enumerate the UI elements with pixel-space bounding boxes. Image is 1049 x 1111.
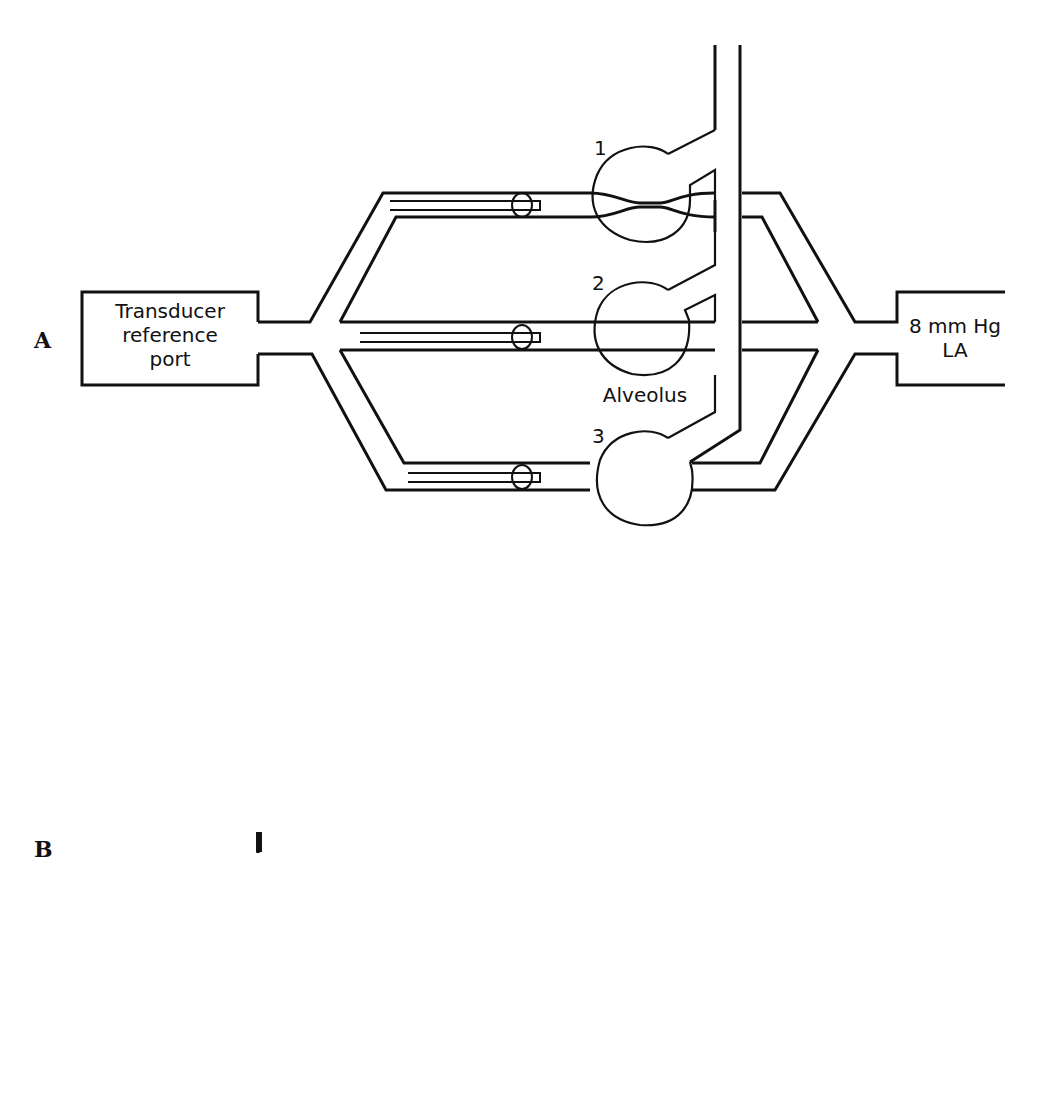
panel-a: A Transducer reference port 1 xyxy=(33,45,1005,525)
alveolus-number: 2 xyxy=(592,271,605,295)
panel-letter: B xyxy=(34,836,53,862)
alveolus-2: 2 Alveolus xyxy=(592,232,715,407)
panel-b: B xyxy=(34,832,260,862)
la-label: LA xyxy=(942,338,968,362)
alveolus-1: 1 xyxy=(590,130,715,242)
catheters xyxy=(360,193,540,489)
alveolus-label: Alveolus xyxy=(603,383,687,407)
panel-letter: A xyxy=(33,327,52,353)
transducer-label-line1: Transducer xyxy=(114,299,226,323)
la-pressure: 8 mm Hg xyxy=(909,314,1001,338)
alveolus-number: 1 xyxy=(594,136,607,160)
transducer-label-line2: reference xyxy=(122,323,218,347)
alveolus-number: 3 xyxy=(592,424,605,448)
pulmonary-vessel-diagram: A Transducer reference port 1 xyxy=(0,0,1049,1111)
transducer-label-line3: port xyxy=(150,347,191,371)
